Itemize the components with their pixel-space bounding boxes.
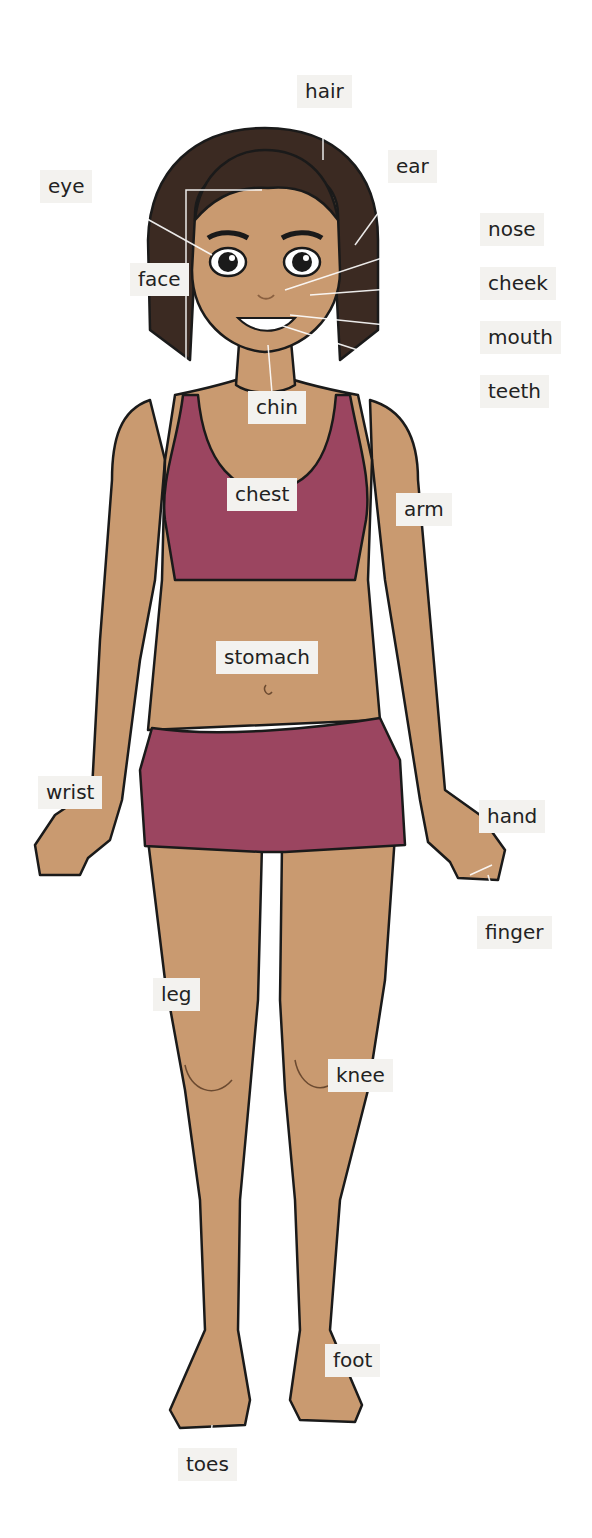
label-leg: leg	[153, 978, 200, 1011]
label-knee: knee	[328, 1059, 393, 1092]
label-ear: ear	[388, 150, 437, 183]
label-finger: finger	[477, 916, 552, 949]
label-arm: arm	[396, 493, 452, 526]
label-chin: chin	[248, 391, 306, 424]
label-hand: hand	[479, 800, 545, 833]
label-hair: hair	[297, 75, 352, 108]
label-stomach: stomach	[216, 641, 318, 674]
label-face: face	[130, 263, 189, 296]
label-foot: foot	[325, 1344, 380, 1377]
label-teeth: teeth	[480, 375, 549, 408]
shorts	[140, 718, 405, 852]
label-wrist: wrist	[38, 776, 102, 809]
label-chest: chest	[227, 478, 297, 511]
label-nose: nose	[480, 213, 544, 246]
label-cheek: cheek	[480, 267, 556, 300]
label-toes: toes	[178, 1448, 237, 1481]
right-leg	[280, 835, 395, 1422]
label-eye: eye	[40, 170, 92, 203]
left-leg	[148, 840, 262, 1428]
label-mouth: mouth	[480, 321, 561, 354]
